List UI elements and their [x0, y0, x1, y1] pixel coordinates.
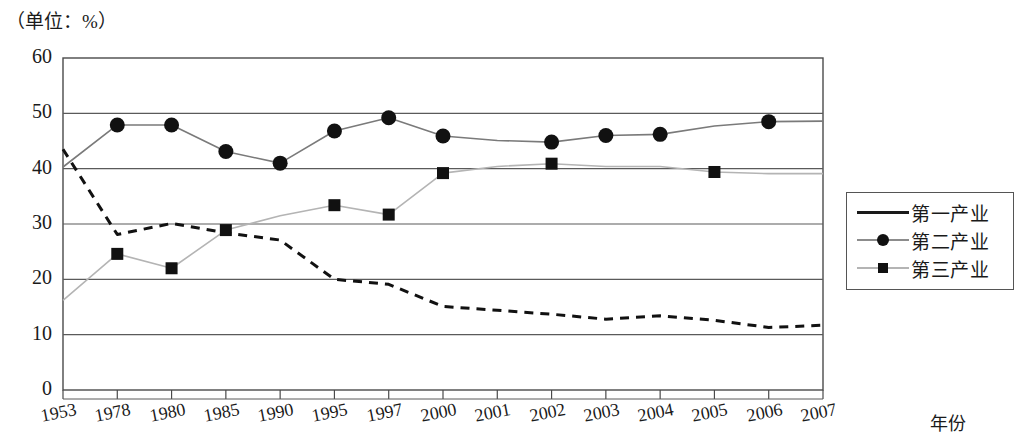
legend-swatch-square-icon	[857, 261, 909, 275]
legend-item-0: 第一产业	[857, 201, 989, 223]
legend-label-2: 第三产业	[911, 255, 989, 282]
x-axis-title: 年份	[930, 409, 966, 435]
chart-legend: 第一产业 第二产业 第三产业	[846, 192, 1014, 290]
y-axis-tick-20: 20	[8, 266, 52, 289]
legend-item-2: 第三产业	[857, 257, 989, 279]
y-axis-tick-10: 10	[8, 322, 52, 345]
chart-root: （单位：%） 第一产业 第二产业 第三产业 0102030405060 1953…	[0, 0, 1019, 438]
y-axis-tick-60: 60	[8, 45, 52, 68]
legend-swatch-circle-icon	[857, 233, 909, 247]
legend-label-1: 第二产业	[911, 227, 989, 254]
legend-item-1: 第二产业	[857, 229, 989, 251]
y-axis-tick-30: 30	[8, 211, 52, 234]
y-axis-tick-0: 0	[8, 377, 52, 400]
y-axis-tick-50: 50	[8, 100, 52, 123]
legend-label-0: 第一产业	[911, 199, 989, 226]
y-axis-tick-40: 40	[8, 156, 52, 179]
legend-swatch-line-icon	[857, 205, 909, 219]
